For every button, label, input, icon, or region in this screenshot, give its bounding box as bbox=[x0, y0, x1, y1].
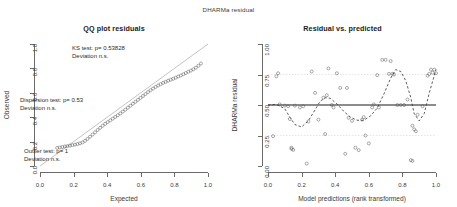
qq-x-tick bbox=[107, 173, 108, 177]
qq-x-tick-label: 0.0 bbox=[36, 182, 44, 188]
data-point bbox=[305, 162, 308, 165]
data-point bbox=[406, 98, 409, 101]
residual-x-tick-label: 0.2 bbox=[297, 182, 305, 188]
data-point bbox=[314, 91, 317, 94]
residual-x-tick bbox=[335, 173, 336, 177]
data-point bbox=[339, 86, 342, 89]
data-point bbox=[416, 113, 419, 116]
residual-x-tick bbox=[436, 173, 437, 177]
dharma-residual-figure: DHARMa residual QQ plot residuals 0.00.2… bbox=[0, 0, 457, 207]
data-point bbox=[351, 119, 354, 122]
residual-y-tick bbox=[258, 44, 262, 45]
data-point bbox=[197, 64, 200, 67]
qq-x-tick bbox=[141, 173, 142, 177]
dispersion-test-pvalue: Dispersion test: p= 0.53 bbox=[20, 96, 83, 104]
residual-x-axis-title: Model predictions (rank transformed) bbox=[298, 195, 406, 202]
data-point bbox=[89, 135, 92, 138]
qq-x-tick-label: 0.6 bbox=[137, 182, 145, 188]
qq-y-tick-label: 0.4 bbox=[32, 117, 38, 125]
residual-x-tick-label: 1.0 bbox=[432, 182, 440, 188]
qq-x-axis bbox=[40, 172, 208, 173]
data-point bbox=[335, 72, 338, 75]
residual-x-tick bbox=[369, 173, 370, 177]
data-point bbox=[376, 74, 379, 77]
data-point bbox=[96, 129, 99, 132]
residual-y-tick bbox=[258, 105, 262, 106]
qq-plot-panel: QQ plot residuals 0.00.20.40.60.81.0 0.0… bbox=[0, 0, 228, 207]
data-point bbox=[344, 152, 347, 155]
data-point bbox=[381, 58, 384, 61]
qq-x-tick-label: 1.0 bbox=[204, 182, 212, 188]
data-point bbox=[317, 118, 320, 121]
data-point bbox=[384, 58, 387, 61]
ks-test-pvalue: KS test: p= 0.53828 bbox=[72, 44, 125, 52]
residual-x-tick-label: 0.8 bbox=[398, 182, 406, 188]
data-point bbox=[86, 137, 89, 140]
qq-y-axis-title: Observed bbox=[3, 91, 10, 120]
residual-quantile-curve bbox=[268, 70, 436, 127]
outlier-test-pvalue: Outlier test: p= 1 bbox=[24, 147, 68, 155]
data-point bbox=[310, 70, 313, 73]
qq-plot-title: QQ plot residuals bbox=[0, 24, 228, 33]
data-point bbox=[357, 149, 360, 152]
qq-x-tick bbox=[174, 173, 175, 177]
data-point bbox=[99, 126, 102, 129]
residual-y-tick bbox=[258, 75, 262, 76]
residual-x-tick bbox=[268, 173, 269, 177]
data-point bbox=[367, 142, 370, 145]
data-point bbox=[414, 130, 417, 133]
residual-x-tick bbox=[402, 173, 403, 177]
data-point bbox=[362, 116, 365, 119]
data-point bbox=[275, 75, 278, 78]
qq-x-tick-label: 0.8 bbox=[170, 182, 178, 188]
qq-annotation-outlier: Outlier test: p= 1 Deviation n.s. bbox=[24, 147, 68, 163]
qq-annotation-ks: KS test: p= 0.53828 Deviation n.s. bbox=[72, 44, 125, 60]
qq-x-tick bbox=[40, 173, 41, 177]
data-point bbox=[345, 86, 348, 89]
qq-x-axis-title: Expected bbox=[110, 195, 138, 202]
data-point bbox=[413, 128, 416, 131]
qq-x-tick bbox=[208, 173, 209, 177]
residual-plot-canvas bbox=[268, 44, 436, 166]
residual-x-tick-label: 0.0 bbox=[264, 182, 272, 188]
residual-y-axis-title: DHARMa residual bbox=[231, 79, 238, 132]
residual-x-tick-label: 0.6 bbox=[365, 182, 373, 188]
residual-x-tick bbox=[302, 173, 303, 177]
dispersion-test-verdict: Deviation n.s. bbox=[20, 104, 83, 112]
data-point bbox=[371, 106, 374, 109]
data-point bbox=[327, 67, 330, 70]
qq-annotation-dispersion: Dispersion test: p= 0.53 Deviation n.s. bbox=[20, 96, 83, 112]
data-point bbox=[94, 131, 97, 134]
data-point bbox=[324, 133, 327, 136]
data-point bbox=[354, 146, 357, 149]
qq-x-tick-label: 0.2 bbox=[69, 182, 77, 188]
data-point bbox=[332, 106, 335, 109]
residual-y-tick bbox=[258, 136, 262, 137]
data-point bbox=[411, 124, 414, 127]
data-point bbox=[389, 60, 392, 63]
qq-y-tick-label: 1.0 bbox=[32, 44, 38, 52]
qq-x-tick-label: 0.4 bbox=[103, 182, 111, 188]
qq-y-tick-label: 0.0 bbox=[32, 166, 38, 174]
qq-x-tick bbox=[74, 173, 75, 177]
data-point bbox=[325, 94, 328, 97]
residual-plot-area: 0.000.250.500.751.00 0.00.20.40.60.81.0 … bbox=[268, 44, 436, 166]
data-point bbox=[272, 135, 275, 138]
residual-x-tick-label: 0.4 bbox=[331, 182, 339, 188]
data-point bbox=[91, 133, 94, 136]
data-point bbox=[428, 72, 431, 75]
residual-plot-panel: Residual vs. predicted 0.000.250.500.751… bbox=[228, 0, 457, 207]
ks-test-verdict: Deviation n.s. bbox=[72, 52, 125, 60]
data-point bbox=[288, 118, 291, 121]
data-point bbox=[199, 62, 202, 65]
data-point bbox=[387, 72, 390, 75]
data-point bbox=[298, 106, 301, 109]
qq-y-tick-label: 0.8 bbox=[32, 68, 38, 76]
residual-plot-title: Residual vs. predicted bbox=[228, 24, 457, 33]
data-point bbox=[429, 68, 432, 71]
residual-x-axis bbox=[268, 172, 436, 173]
residual-y-tick bbox=[258, 166, 262, 167]
outlier-test-verdict: Deviation n.s. bbox=[24, 155, 68, 163]
data-point bbox=[431, 71, 434, 74]
